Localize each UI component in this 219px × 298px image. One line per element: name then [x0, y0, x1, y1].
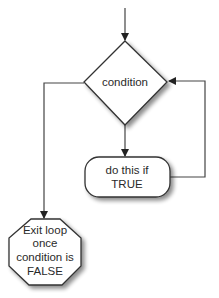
action-node: do this if TRUE [85, 157, 170, 197]
condition-node: condition [84, 41, 167, 125]
exit-label-line4: FALSE [27, 265, 63, 277]
rounded-rect-shape [85, 157, 170, 197]
exit-label-line2: once [33, 237, 58, 249]
loop-back-arrow [169, 81, 205, 177]
flowchart-canvas: condition do this if TRUE Exit loop once… [0, 0, 219, 298]
exit-node: Exit loop once condition is FALSE [9, 219, 81, 285]
condition-label: condition [102, 76, 148, 88]
exit-label-line1: Exit loop [23, 224, 67, 236]
exit-label-line3: condition is [16, 251, 74, 263]
action-label-line1: do this if [106, 164, 150, 176]
action-label-line2: TRUE [111, 178, 143, 190]
false-branch-arrow [44, 83, 84, 218]
